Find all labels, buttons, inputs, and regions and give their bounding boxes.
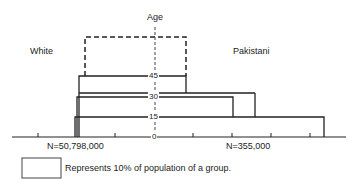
legend-text: Represents 10% of population of a group.: [65, 163, 231, 173]
pakistani-group-label: Pakistani: [233, 46, 270, 56]
pyramid-diagram: [0, 0, 364, 186]
age-axis-title: Age: [147, 12, 163, 22]
white-group-label: White: [30, 46, 53, 56]
age-tick-0: 0: [151, 132, 157, 141]
pakistani-n-label: N=355,000: [226, 141, 270, 151]
age-tick-45: 45: [148, 71, 159, 80]
age-tick-15: 15: [148, 112, 159, 121]
white-n-label: N=50,798,000: [47, 141, 104, 151]
age-tick-30: 30: [148, 92, 159, 101]
